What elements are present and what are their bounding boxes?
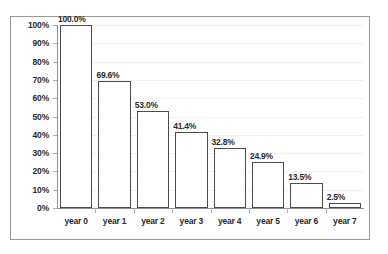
bar-slot: 32.8%	[211, 25, 249, 208]
x-axis-category-label: year 6	[287, 216, 325, 226]
bar-data-label: 24.9%	[250, 151, 273, 161]
bar-data-label: 53.0%	[135, 100, 158, 110]
y-axis: 0%10%20%30%40%50%60%70%80%90%100%	[11, 17, 53, 241]
x-axis-category-label: year 7	[326, 216, 364, 226]
x-axis-tick-mark	[326, 208, 327, 213]
bar-data-label: 13.5%	[288, 172, 311, 182]
bars-layer: 100.0%69.6%53.0%41.4%32.8%24.9%13.5%2.5%	[57, 25, 364, 208]
y-axis-tick-label: 40%	[11, 130, 49, 140]
chart-frame: 0%10%20%30%40%50%60%70%80%90%100% 100.0%…	[10, 16, 370, 240]
plot-area: 100.0%69.6%53.0%41.4%32.8%24.9%13.5%2.5%	[57, 25, 364, 208]
bar-data-label: 69.6%	[96, 70, 119, 80]
y-axis-tick-label: 80%	[11, 57, 49, 67]
bar[interactable]	[137, 111, 169, 208]
y-axis-tick-label: 30%	[11, 148, 49, 158]
bar[interactable]	[98, 81, 130, 208]
y-axis-tick-label: 90%	[11, 38, 49, 48]
bar-slot: 100.0%	[57, 25, 95, 208]
bar[interactable]	[60, 25, 92, 208]
bar[interactable]	[329, 203, 361, 208]
bar-data-label: 32.8%	[212, 137, 235, 147]
bar[interactable]	[214, 148, 246, 208]
y-axis-tick-label: 70%	[11, 75, 49, 85]
x-axis-category-label: year 4	[211, 216, 249, 226]
y-axis-tick-label: 60%	[11, 93, 49, 103]
bar-data-label: 100.0%	[58, 14, 86, 24]
y-axis-tick-label: 50%	[11, 112, 49, 122]
x-axis-tick-mark	[211, 208, 212, 213]
bar[interactable]	[175, 132, 207, 208]
x-axis-category-label: year 2	[134, 216, 172, 226]
x-axis-category-label: year 5	[249, 216, 287, 226]
bar-slot: 53.0%	[134, 25, 172, 208]
x-axis-tick-mark	[95, 208, 96, 213]
x-axis-tick-mark	[287, 208, 288, 213]
x-axis-category-label: year 3	[172, 216, 210, 226]
x-axis-category-label: year 1	[95, 216, 133, 226]
bar-slot: 13.5%	[287, 25, 325, 208]
y-axis-tick-label: 10%	[11, 185, 49, 195]
bar-data-label: 41.4%	[173, 121, 196, 131]
bar[interactable]	[290, 183, 322, 208]
bar[interactable]	[252, 162, 284, 208]
y-axis-tick-label: 0%	[11, 203, 49, 213]
bar-slot: 2.5%	[326, 25, 364, 208]
bar-slot: 69.6%	[95, 25, 133, 208]
x-axis-tick-mark	[172, 208, 173, 213]
bar-slot: 41.4%	[172, 25, 210, 208]
y-axis-tick-label: 20%	[11, 166, 49, 176]
y-axis-tick-label: 100%	[11, 20, 49, 30]
x-axis-category-label: year 0	[57, 216, 95, 226]
x-axis-tick-mark	[249, 208, 250, 213]
x-axis: year 0year 1year 2year 3year 4year 5year…	[57, 213, 364, 233]
bar-slot: 24.9%	[249, 25, 287, 208]
x-axis-tick-mark	[134, 208, 135, 213]
bar-data-label: 2.5%	[327, 192, 346, 202]
